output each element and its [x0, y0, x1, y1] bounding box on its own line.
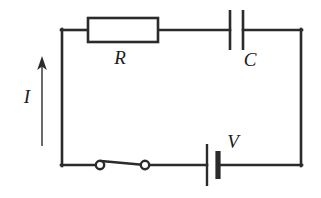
switch-node-left	[96, 161, 104, 169]
resistor-component: R	[88, 18, 158, 68]
capacitor-label: C	[244, 49, 257, 70]
battery-component: V	[207, 131, 241, 186]
circuit-wires	[61, 29, 302, 166]
circuit-schematic-svg: R C V I	[0, 0, 321, 198]
switch-node-right	[141, 161, 149, 169]
capacitor-component: C	[230, 10, 257, 70]
resistor-box	[88, 18, 158, 42]
current-arrow: I	[23, 56, 47, 146]
resistor-label: R	[113, 47, 126, 68]
circuit-diagram-figure: R C V I	[0, 0, 321, 198]
switch-component	[96, 161, 149, 169]
switch-lever	[101, 161, 145, 165]
current-label: I	[23, 86, 32, 107]
voltage-source-label: V	[227, 131, 241, 152]
